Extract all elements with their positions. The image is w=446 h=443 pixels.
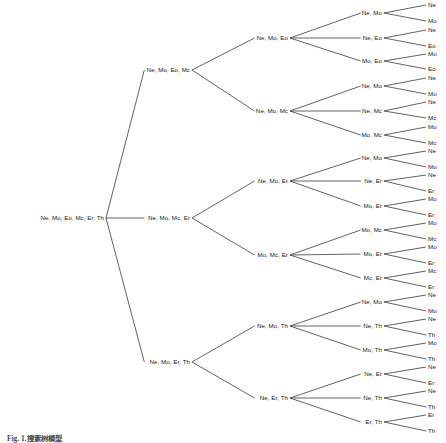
- tree-leaf-33: Th: [428, 404, 435, 410]
- tree-leaf-21: Er: [428, 260, 434, 266]
- tree-node-level4-1: Ne, Eo: [363, 35, 382, 41]
- edge-level3-2-level4-2: [290, 181, 361, 206]
- edge-root-level2-0: [106, 70, 144, 218]
- edge-level4-12-leaf-1: [384, 302, 426, 311]
- tree-leaf-24: Ne: [428, 292, 436, 298]
- edge-level4-7-leaf-0: [384, 175, 426, 181]
- tree-leaf-34: Er: [428, 412, 434, 418]
- tree-node-level4-15: Ne, Er: [364, 371, 382, 377]
- edge-level4-13-leaf-0: [384, 319, 426, 326]
- tree-node-level4-2: Mo, Eo: [362, 58, 382, 64]
- edge-level4-2-leaf-1: [384, 61, 426, 69]
- tree-node-level4-17: Er, Th: [365, 419, 382, 425]
- tree-node-level4-13: Ne, Th: [363, 323, 382, 329]
- tree-leaf-11: Mc: [428, 140, 436, 146]
- tree-leaf-27: Th: [428, 332, 435, 338]
- edge-level4-14-leaf-1: [384, 350, 426, 359]
- tree-leaf-3: Eo: [428, 43, 436, 49]
- tree-node-level2-2: Ne, Mo, Er, Th: [150, 359, 190, 365]
- edge-level4-0-leaf-0: [384, 5, 426, 13]
- tree-leaf-5: Eo: [428, 66, 436, 72]
- edge-level3-5-level4-2: [290, 398, 361, 422]
- edge-level4-8-leaf-0: [384, 199, 426, 206]
- edge-level4-0-leaf-1: [384, 13, 426, 21]
- tree-node-level4-4: Ne, Mc: [362, 108, 382, 114]
- tree-leaf-9: Mc: [428, 115, 436, 121]
- edge-level4-15-leaf-1: [384, 374, 426, 383]
- tree-leaf-20: Mo: [428, 244, 437, 250]
- edge-level4-10-leaf-1: [384, 254, 426, 263]
- edge-level3-4-level4-0: [290, 302, 361, 326]
- edge-level3-5-level4-0: [290, 374, 361, 398]
- edge-level4-5-leaf-1: [384, 135, 426, 143]
- tree-leaf-35: Th: [428, 428, 435, 434]
- tree-node-level4-14: Mo, Th: [363, 347, 382, 353]
- tree-leaf-10: Mo: [428, 124, 437, 130]
- tree-leaf-0: Ne: [428, 2, 436, 8]
- edge-level2-0-level3-0: [192, 38, 255, 70]
- edge-level3-1-level4-2: [290, 111, 361, 135]
- tree-leaf-28: Mo: [428, 340, 437, 346]
- tree-leaf-14: Ne: [428, 172, 436, 178]
- tree-node-level3-2: Ne, Mo, Er: [258, 178, 288, 184]
- tree-node-level4-3: Ne, Mo: [362, 83, 382, 89]
- tree-node-level4-10: Mo, Er: [363, 251, 382, 257]
- tree-node-level3-5: Ne, Er, Th: [260, 395, 288, 401]
- tree-leaf-8: Ne: [428, 99, 436, 105]
- edge-level4-17-leaf-0: [384, 415, 426, 422]
- tree-node-level4-7: Ne, Er: [364, 178, 382, 184]
- tree-leaf-13: Mo: [428, 164, 437, 170]
- tree-node-level3-1: Ne, Mo, Mc: [256, 108, 288, 114]
- edge-level3-3-level4-2: [290, 255, 361, 278]
- tree-node-level4-9: Mo, Mc: [361, 227, 382, 233]
- tree-leaf-6: Ne: [428, 75, 436, 81]
- tree-leaf-30: Ne: [428, 364, 436, 370]
- edge-level4-2-leaf-0: [384, 54, 426, 61]
- tree-leaf-32: Ne: [428, 388, 436, 394]
- edge-level4-11-leaf-1: [384, 278, 426, 287]
- tree-leaf-2: Ne: [428, 27, 436, 33]
- tree-node-level4-5: Mo, Mc: [361, 132, 382, 138]
- edge-level4-16-leaf-0: [384, 391, 426, 398]
- edge-level4-10-leaf-0: [384, 247, 426, 254]
- tree-leaf-26: Ne: [428, 316, 436, 322]
- tree-node-level4-16: Ne, Th: [363, 395, 382, 401]
- edge-level4-1-leaf-0: [384, 30, 426, 38]
- edge-level4-17-leaf-1: [384, 422, 426, 431]
- edge-level3-1-level4-0: [290, 86, 361, 111]
- tree-leaf-31: Er: [428, 380, 434, 386]
- edge-level4-1-leaf-1: [384, 38, 426, 46]
- edge-level4-6-leaf-0: [384, 151, 426, 158]
- tree-leaf-1: Mo: [428, 18, 437, 24]
- tree-node-level2-1: Ne, Mo, Mc, Er: [148, 215, 190, 221]
- edge-level3-3-level4-1: [290, 254, 361, 255]
- edge-level3-2-level4-0: [290, 158, 361, 181]
- tree-node-level4-8: Mo, Er: [363, 203, 382, 209]
- edge-level4-15-leaf-0: [384, 367, 426, 374]
- tree-node-root: Ne, Mo, Eo, Mc, Er, Th: [40, 215, 104, 221]
- tree-node-level4-6: Ne, Mo: [362, 155, 382, 161]
- edge-level4-4-leaf-1: [384, 111, 426, 118]
- tree-leaf-22: Mc: [428, 268, 436, 274]
- edge-level4-13-leaf-1: [384, 326, 426, 335]
- edge-level3-4-level4-2: [290, 326, 361, 350]
- edge-level4-5-leaf-0: [384, 127, 426, 135]
- edge-level4-7-leaf-1: [384, 181, 426, 191]
- tree-leaf-15: Er: [428, 188, 434, 194]
- edge-level2-1-level3-0: [192, 181, 255, 218]
- edge-level4-11-leaf-0: [384, 271, 426, 278]
- edge-level3-0-level4-2: [290, 38, 361, 61]
- edge-level4-3-leaf-1: [384, 86, 426, 94]
- tree-node-level4-0: Ne, Mo: [362, 10, 382, 16]
- tree-leaf-25: Mo: [428, 308, 437, 314]
- tree-leaf-7: Mo: [428, 91, 437, 97]
- edge-level3-0-level4-0: [290, 13, 361, 38]
- tree-leaf-18: Mo: [428, 220, 437, 226]
- edge-level4-6-leaf-1: [384, 158, 426, 167]
- edge-level2-1-level3-1: [192, 218, 255, 255]
- tree-leaf-23: Er: [428, 284, 434, 290]
- edge-level4-8-leaf-1: [384, 206, 426, 215]
- tree-node-level4-11: Mc, Er: [364, 275, 382, 281]
- tree-leaf-16: Mo: [428, 196, 437, 202]
